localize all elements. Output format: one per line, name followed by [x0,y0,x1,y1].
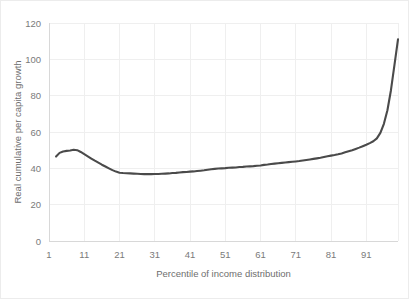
x-tick-label: 81 [326,249,337,260]
x-tick-label: 91 [361,249,372,260]
x-axis-tick-labels: 1112131415161718191 [46,249,371,260]
x-tick-label: 31 [149,249,160,260]
y-tick-label: 120 [25,18,41,29]
x-tick-label: 41 [185,249,196,260]
y-axis-title: Real cumulative per capita growth [12,60,23,203]
y-tick-label: 60 [30,127,41,138]
x-axis-title: Percentile of income distribution [156,268,291,279]
x-tick-label: 51 [220,249,231,260]
x-tick-label: 11 [79,249,89,260]
y-tick-label: 20 [30,199,41,210]
y-axis-tick-labels: 020406080100120 [25,18,41,247]
x-tick-label: 61 [255,249,266,260]
x-tick-label: 71 [290,249,301,260]
x-tick-label: 21 [114,249,125,260]
y-tick-label: 80 [30,90,41,101]
y-tick-label: 40 [30,163,41,174]
y-tick-label: 100 [25,54,41,65]
gridlines [49,23,398,241]
x-tick-label: 1 [46,249,51,260]
line-chart: 020406080100120 1112131415161718191 Perc… [1,1,409,299]
chart-figure: 020406080100120 1112131415161718191 Perc… [0,0,409,299]
y-tick-label: 0 [36,236,41,247]
